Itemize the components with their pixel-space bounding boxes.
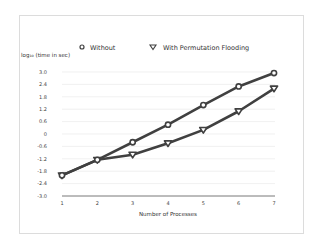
y-tick-label: 0.6: [39, 118, 47, 124]
x-tick-label: 2: [96, 200, 99, 206]
x-tick-label: 6: [237, 200, 240, 206]
data-point-triangle: [164, 141, 171, 147]
legend-label-with-permutation-flooding: With Permutation Flooding: [163, 44, 249, 52]
y-tick-label: 3.0: [39, 69, 47, 75]
y-axis-ticks: 3.02.41.81.20.60-0.6-1.2-1.8-2.4-3.0: [37, 69, 47, 199]
y-tick-label: 1.8: [39, 94, 47, 100]
triangle-down-marker-icon: [150, 45, 156, 50]
x-tick-label: 4: [166, 200, 169, 206]
data-point-circle: [165, 122, 170, 127]
x-axis-ticks: 1234567: [60, 200, 275, 206]
series-without: [59, 70, 276, 177]
legend: Without With Permutation Flooding: [80, 44, 249, 52]
x-axis-title: Number of Processes: [139, 211, 197, 217]
data-point-circle: [271, 70, 276, 75]
x-tick-label: 7: [272, 200, 275, 206]
y-tick-label: -0.6: [37, 143, 47, 149]
data-point-circle: [201, 102, 206, 107]
y-tick-label: -2.4: [37, 180, 47, 186]
series-with-permutation-flooding: [58, 86, 277, 178]
data-point-circle: [95, 157, 100, 162]
y-tick-label: -3.0: [37, 193, 47, 199]
y-tick-label: 2.4: [39, 81, 47, 87]
y-tick-label: 1.2: [39, 106, 47, 112]
data-point-circle: [236, 84, 241, 89]
legend-item-with-permutation-flooding: With Permutation Flooding: [150, 44, 249, 52]
legend-item-without: Without: [80, 44, 116, 52]
data-point-circle: [130, 140, 135, 145]
x-tick-label: 5: [202, 200, 205, 206]
data-point-triangle: [129, 152, 136, 158]
line-chart: 3.02.41.81.20.60-0.6-1.2-1.8-2.4-3.0 123…: [0, 0, 321, 249]
y-tick-label: -1.2: [37, 156, 47, 162]
x-tick-label: 1: [60, 200, 63, 206]
data-series: [58, 70, 277, 178]
data-point-circle: [59, 173, 64, 178]
y-tick-label: 0: [44, 131, 47, 137]
circle-marker-icon: [80, 45, 84, 49]
y-tick-label: -1.8: [37, 168, 47, 174]
data-point-triangle: [200, 127, 207, 133]
x-tick-label: 3: [131, 200, 134, 206]
y-axis-title: log₁₀ (time in sec): [21, 52, 70, 59]
legend-label-without: Without: [90, 44, 116, 52]
